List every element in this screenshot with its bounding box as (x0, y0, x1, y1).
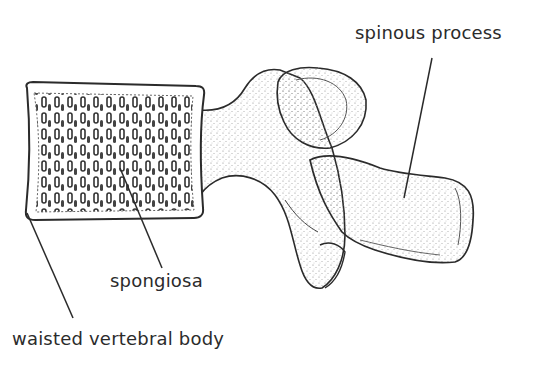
label-spongiosa: spongiosa (110, 270, 203, 291)
vertebra-illustration (0, 0, 543, 374)
label-spinous-process: spinous process (355, 22, 502, 43)
leader-waisted-vertebral-body (27, 213, 73, 318)
label-waisted-vertebral-body: waisted vertebral body (12, 328, 224, 349)
vertebral-body (26, 82, 204, 220)
